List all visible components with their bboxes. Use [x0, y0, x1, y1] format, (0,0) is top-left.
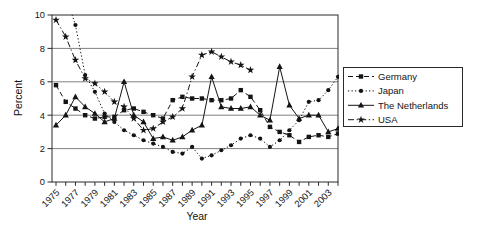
star-marker [208, 48, 216, 55]
square-marker [141, 110, 145, 114]
square-marker [151, 113, 155, 117]
square-marker [73, 106, 77, 110]
triangle-marker [306, 112, 312, 118]
triangle-marker [218, 103, 224, 109]
triangle-marker [189, 127, 195, 133]
circle-marker [161, 145, 165, 149]
triangle-marker [315, 112, 321, 118]
triangle-marker [277, 63, 283, 69]
triangle-marker [199, 122, 205, 128]
legend-label-usa: USA [378, 114, 398, 125]
square-marker [229, 96, 233, 100]
square-marker [326, 135, 330, 139]
circle-marker [132, 133, 136, 137]
triangle-marker [247, 103, 253, 109]
triangle-marker [140, 118, 146, 124]
x-tick-label: 1983 [118, 187, 140, 209]
circle-marker [248, 133, 252, 137]
square-marker [239, 88, 243, 92]
square-marker [277, 130, 281, 134]
circle-marker [190, 145, 194, 149]
star-marker [218, 53, 226, 60]
x-tick-label: 1989 [176, 187, 198, 209]
legend: GermanyJapanThe NetherlandsUSA [344, 68, 463, 127]
y-tick-label: 6 [40, 77, 45, 87]
x-tick-label: 1999 [273, 187, 295, 209]
star-marker [101, 88, 109, 95]
circle-marker [151, 141, 155, 145]
legend-label-germany: Germany [378, 71, 417, 82]
y-tick-label: 8 [40, 44, 45, 54]
square-marker [180, 95, 184, 99]
y-tick-label: 0 [40, 177, 45, 187]
square-marker [93, 116, 97, 120]
triangle-marker [63, 112, 69, 118]
circle-marker [307, 100, 311, 104]
series-the-netherlands-line [56, 67, 338, 141]
circle-marker [93, 90, 97, 94]
circle-marker [141, 138, 145, 142]
legend-label-japan: Japan [378, 85, 404, 96]
circle-marker [336, 75, 340, 79]
star-marker [81, 74, 89, 81]
star-marker [149, 125, 157, 132]
circle-marker [278, 138, 282, 142]
star-marker [247, 66, 255, 73]
triangle-marker [267, 117, 273, 123]
y-tick-label: 2 [40, 144, 45, 154]
triangle-marker [72, 93, 78, 99]
square-marker [54, 83, 58, 87]
square-marker [209, 98, 213, 102]
square-marker [83, 113, 87, 117]
triangle-marker [121, 78, 127, 84]
circle-marker [73, 23, 77, 27]
x-tick-label: 1997 [254, 187, 276, 209]
circle-marker [122, 128, 126, 132]
triangle-marker [92, 110, 98, 116]
star-marker [52, 16, 60, 23]
square-marker [248, 95, 252, 99]
legend-label-the-netherlands: The Netherlands [378, 100, 448, 111]
circle-marker [258, 136, 262, 140]
x-tick-label: 1995 [234, 187, 256, 209]
circle-marker [171, 150, 175, 154]
x-axis-title: Year [186, 210, 208, 222]
square-marker [336, 131, 340, 135]
x-tick-label: 1975 [40, 187, 62, 209]
triangle-marker [179, 134, 185, 140]
square-marker [287, 133, 291, 137]
x-tick-label: 1991 [195, 187, 217, 209]
square-marker [268, 125, 272, 129]
square-marker [190, 96, 194, 100]
circle-marker [103, 111, 107, 115]
x-tick-label: 1981 [98, 187, 120, 209]
x-tick-label: 1977 [59, 187, 81, 209]
star-marker [188, 73, 196, 80]
x-tick-label: 2001 [293, 187, 315, 209]
circle-marker [180, 152, 184, 156]
x-tick-label: 2003 [312, 187, 334, 209]
circle-marker [209, 153, 213, 157]
line-chart-figure: 0246810197519771979198119831985198719891… [0, 0, 480, 236]
circle-marker [326, 88, 330, 92]
circle-marker [219, 148, 223, 152]
circle-marker [239, 136, 243, 140]
square-marker [307, 135, 311, 139]
series-japan [54, 0, 340, 161]
circle-marker [268, 145, 272, 149]
circle-marker [287, 128, 291, 132]
square-marker [359, 74, 363, 78]
triangle-marker [160, 134, 166, 140]
circle-marker [200, 157, 204, 161]
star-marker [227, 58, 235, 65]
circle-marker [229, 143, 233, 147]
y-axis: 0246810 [35, 10, 52, 187]
star-marker [72, 56, 80, 63]
square-marker [258, 108, 262, 112]
chart-canvas: 0246810197519771979198119831985198719891… [0, 0, 480, 236]
triangle-marker [335, 125, 341, 131]
x-tick-label: 1979 [79, 187, 101, 209]
star-marker [91, 79, 99, 86]
y-tick-label: 10 [35, 10, 45, 20]
star-marker [62, 33, 70, 40]
